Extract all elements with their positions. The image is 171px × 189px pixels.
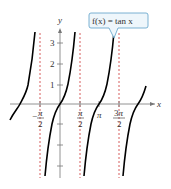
svg-text:π: π	[78, 108, 83, 118]
svg-text:π: π	[97, 110, 102, 120]
callout-text: f(x) = tan x	[92, 16, 133, 26]
y-axis-label: y	[57, 15, 62, 25]
y-axis-arrow-icon	[58, 28, 62, 33]
svg-text:2: 2	[78, 119, 83, 129]
tan-graph: y x 3 2 1 − π 2 π 2 π 3π 2 f(x) = tan x	[0, 0, 171, 189]
svg-text:3π: 3π	[114, 108, 124, 118]
x-axis-label: x	[156, 99, 161, 109]
asymptotes	[40, 33, 119, 178]
svg-text:π: π	[38, 108, 43, 118]
svg-text:2: 2	[117, 119, 122, 129]
y-tick-1: 1	[50, 80, 55, 90]
svg-text:−: −	[32, 111, 37, 121]
function-callout: f(x) = tan x	[89, 13, 148, 38]
svg-text:2: 2	[38, 119, 43, 129]
y-tick-3: 3	[50, 38, 55, 48]
y-tick-2: 2	[50, 59, 55, 69]
axes	[10, 30, 155, 178]
x-tick-labels: − π 2 π 2 π 3π 2	[32, 108, 125, 129]
x-axis-arrow-icon	[150, 102, 155, 106]
